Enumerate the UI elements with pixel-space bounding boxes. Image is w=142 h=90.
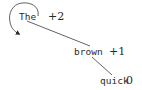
node-the: The +2: [19, 10, 64, 23]
node-score: 0: [126, 74, 133, 87]
node-score: +1: [109, 45, 125, 58]
node-word: The: [19, 11, 36, 22]
node-word: quick: [100, 75, 129, 86]
node-brown: brown +1: [74, 45, 125, 58]
node-score: +2: [48, 10, 64, 23]
node-word: brown: [74, 46, 103, 57]
dependency-diagram: The +2 brown +1 quick 0: [0, 0, 142, 90]
node-quick: quick 0: [100, 74, 133, 87]
edge-brown-quick: [92, 57, 112, 75]
edge-the-brown: [27, 21, 90, 46]
